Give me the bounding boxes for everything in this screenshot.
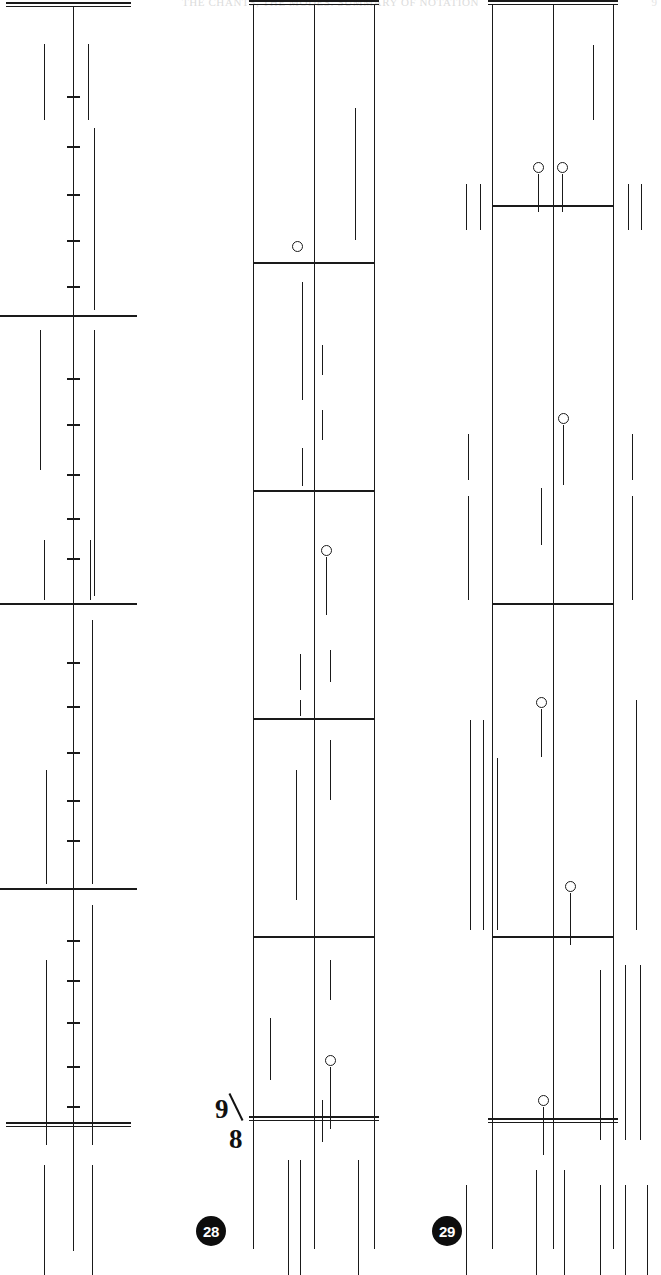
neume-stroke: [302, 448, 303, 486]
folio-number: 9: [652, 0, 658, 8]
notehead-stem: [543, 1107, 544, 1155]
spine-tick-mark: [67, 940, 80, 942]
top-double-rule: [6, 2, 131, 8]
neume-stroke: [536, 1170, 537, 1275]
notehead: [538, 1095, 549, 1106]
system-number-badge: 29: [432, 1216, 462, 1246]
notehead: [536, 697, 547, 708]
barline: [253, 718, 375, 720]
neume-stroke: [94, 128, 95, 310]
neume-stroke: [564, 1170, 565, 1275]
spine-tick-mark: [67, 474, 80, 476]
neume-stroke: [300, 1160, 301, 1275]
barline: [0, 888, 137, 890]
neume-stroke: [46, 770, 47, 884]
spine-tick-mark: [67, 558, 80, 560]
staff-frame-right: [374, 4, 375, 1249]
spine-tick-mark: [67, 194, 80, 196]
spine-tick-mark: [67, 662, 80, 664]
neume-stroke: [625, 965, 626, 1140]
notehead-stem: [538, 174, 539, 212]
neume-stroke: [322, 1100, 323, 1142]
spine-tick-mark: [67, 800, 80, 802]
spine-tick-mark: [67, 980, 80, 982]
neume-stroke: [470, 720, 471, 930]
notehead: [325, 1055, 336, 1066]
manuscript-page: THE CHANTS, THE MODES: SUMMARY OF NOTATI…: [0, 0, 661, 1275]
system-right: [492, 0, 614, 1275]
spine-tick-mark: [67, 240, 80, 242]
staff-frame-left: [492, 4, 493, 1249]
barline: [492, 603, 614, 605]
neume-stroke: [322, 410, 323, 440]
notehead: [565, 881, 576, 892]
neume-stroke: [90, 540, 91, 600]
neume-stroke: [647, 1185, 648, 1275]
neume-stroke: [625, 1185, 626, 1275]
barline: [0, 315, 137, 317]
notehead: [533, 162, 544, 173]
neume-stroke: [288, 1160, 289, 1275]
neume-stroke: [641, 184, 642, 230]
spine-tick-mark: [67, 752, 80, 754]
neume-stroke: [468, 434, 469, 480]
notehead: [321, 545, 332, 556]
barline: [0, 603, 137, 605]
spine-tick-mark: [67, 378, 80, 380]
neume-stroke: [355, 108, 356, 240]
staff-spine: [553, 4, 554, 1249]
neume-stroke: [44, 44, 45, 120]
system-left: [8, 0, 129, 1275]
barline: [492, 205, 614, 207]
bottom-double-rule: [6, 1122, 131, 1128]
barline: [253, 936, 375, 938]
spine-tick-mark: [67, 1022, 80, 1024]
neume-stroke: [322, 345, 323, 375]
neume-stroke: [40, 330, 41, 470]
neume-stroke: [358, 1160, 359, 1275]
neume-stroke: [468, 496, 469, 600]
neume-stroke: [92, 905, 93, 1145]
system-middle: [253, 0, 375, 1275]
spine-tick-mark: [67, 706, 80, 708]
neume-stroke: [636, 700, 637, 930]
notehead: [292, 241, 303, 252]
staff-spine: [73, 6, 74, 1251]
neume-stroke: [466, 184, 467, 230]
notehead: [557, 162, 568, 173]
neume-stroke: [466, 1185, 467, 1275]
neume-stroke: [593, 45, 594, 120]
neume-stroke: [600, 1185, 601, 1275]
neume-stroke: [632, 496, 633, 600]
spine-tick-mark: [67, 96, 80, 98]
neume-stroke: [330, 650, 331, 682]
notehead-stem: [330, 1067, 331, 1129]
spine-tick-mark: [67, 286, 80, 288]
barline: [253, 490, 375, 492]
neume-stroke: [632, 434, 633, 480]
spine-tick-mark: [67, 1106, 80, 1108]
notehead-stem: [563, 425, 564, 485]
neume-stroke: [44, 1165, 45, 1275]
spine-tick-mark: [67, 518, 80, 520]
time-signature-numerator: 9: [215, 1096, 229, 1123]
staff-spine: [314, 4, 315, 1249]
neume-stroke: [94, 330, 95, 596]
neume-stroke: [480, 184, 481, 230]
staff-frame-right: [613, 4, 614, 1249]
neume-stroke: [330, 960, 331, 1000]
neume-stroke: [483, 720, 484, 930]
neume-stroke: [628, 184, 629, 230]
neume-stroke: [88, 44, 89, 120]
time-signature-bar: [229, 1093, 244, 1121]
neume-stroke: [302, 282, 303, 400]
neume-stroke: [44, 540, 45, 600]
barline: [492, 936, 614, 938]
neume-stroke: [600, 970, 601, 1140]
system-number-badge: 28: [196, 1216, 226, 1246]
spine-tick-mark: [67, 1066, 80, 1068]
staff-frame-left: [253, 4, 254, 1249]
notehead-stem: [541, 709, 542, 757]
neume-stroke: [46, 960, 47, 1145]
neume-stroke: [270, 1018, 271, 1080]
